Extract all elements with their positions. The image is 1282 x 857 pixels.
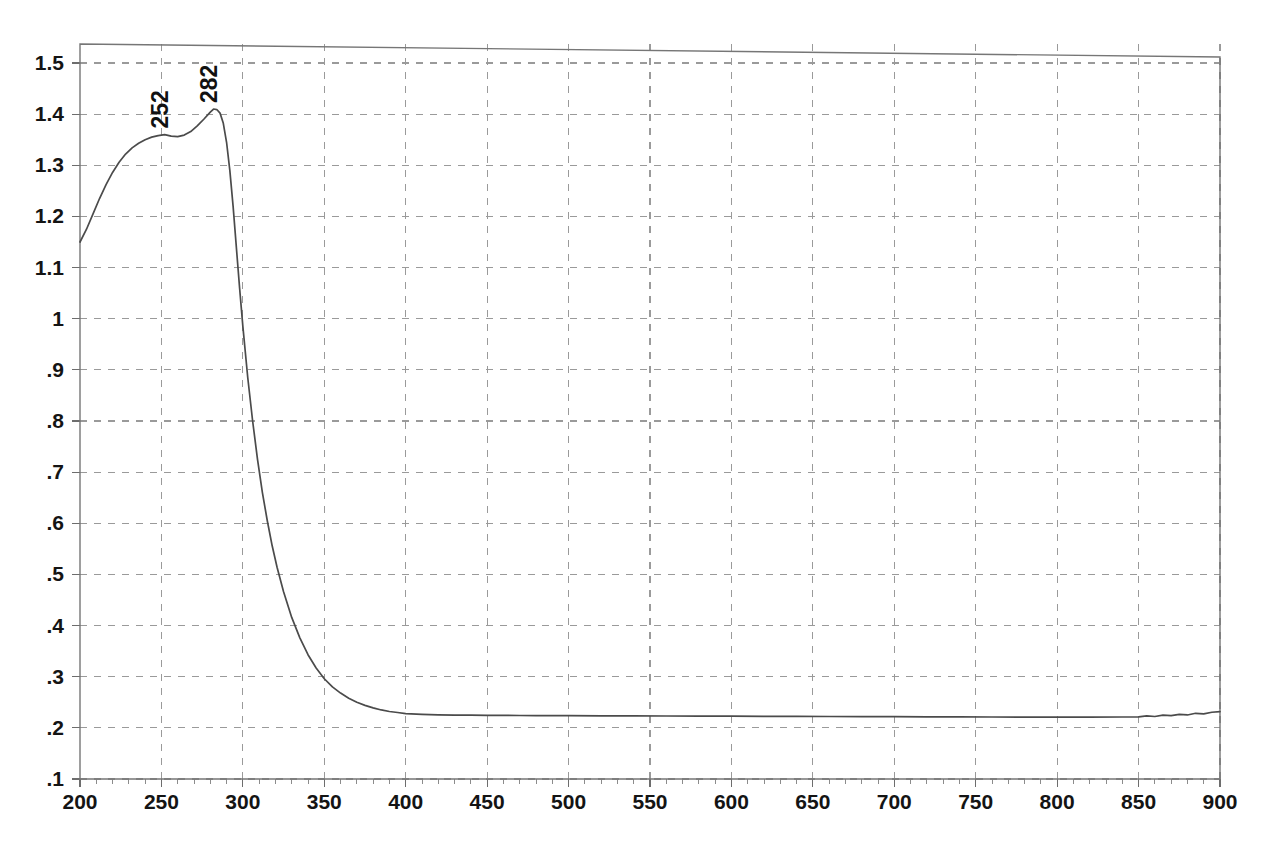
vertical-gridlines [161,44,1220,779]
y-tick-label: 1 [52,307,64,330]
uv-vis-spectrum-figure: 1.51.41.31.21.11.9.8.7.6.5.4.3.2.1 20025… [0,0,1282,857]
y-tick-label: .5 [46,562,64,585]
x-tick-label: 300 [225,790,260,813]
y-tick-label: .9 [46,358,64,381]
x-tick-label: 200 [62,790,97,813]
peak-label-282: 282 [196,65,222,103]
x-tick-label: 350 [307,790,342,813]
y-tick-label: 1.2 [35,204,64,227]
y-tick-label: .8 [46,409,64,432]
x-tick-label: 900 [1202,790,1237,813]
x-tick-label: 550 [632,790,667,813]
x-tick-label: 700 [877,790,912,813]
x-tick-label: 650 [795,790,830,813]
x-tick-label: 800 [1040,790,1075,813]
y-tick-label: .3 [46,665,64,688]
x-tick-label: 600 [714,790,749,813]
peak-label-252: 252 [147,90,173,128]
wavelength-axis-labels: 2002503003504004505005506006507007508008… [62,790,1237,813]
x-tick-label: 750 [958,790,993,813]
x-tick-label: 500 [551,790,586,813]
absorbance-axis-labels: 1.51.41.31.21.11.9.8.7.6.5.4.3.2.1 [35,51,65,790]
y-tick-label: 1.5 [35,51,65,74]
y-tick-label: 1.4 [35,102,65,125]
y-tick-label: .7 [46,460,64,483]
spectrum-plot: 1.51.41.31.21.11.9.8.7.6.5.4.3.2.1 20025… [0,0,1282,857]
x-tick-label: 450 [470,790,505,813]
major-tick-marks [72,63,1220,787]
y-tick-label: .1 [46,767,64,790]
y-tick-label: .2 [46,716,64,739]
peak-annotations: 252282 [147,65,222,129]
y-tick-label: .4 [46,614,64,637]
x-tick-label: 400 [388,790,423,813]
y-tick-label: 1.1 [35,256,65,279]
y-tick-label: .6 [46,511,64,534]
x-tick-label: 850 [1121,790,1156,813]
x-tick-label: 250 [144,790,179,813]
y-tick-label: 1.3 [35,153,64,176]
